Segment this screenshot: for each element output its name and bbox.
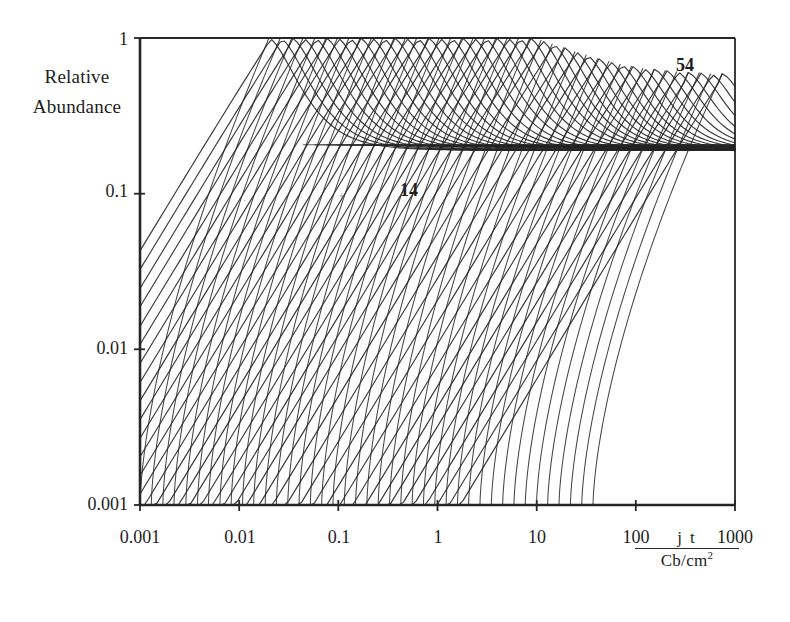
curve-18 — [140, 40, 735, 326]
curve-rise-45 — [491, 64, 620, 505]
curve-rise-44 — [480, 61, 609, 505]
curve-rise-40 — [435, 47, 564, 505]
curve-24 — [140, 40, 735, 438]
curve-family — [140, 38, 735, 505]
plot-canvas — [0, 0, 790, 622]
curve-16 — [140, 38, 735, 288]
curve-rise-41 — [446, 51, 575, 505]
figure-root: Relative Abundance 1 0.1 0.01 0.001 0.00… — [0, 0, 790, 622]
